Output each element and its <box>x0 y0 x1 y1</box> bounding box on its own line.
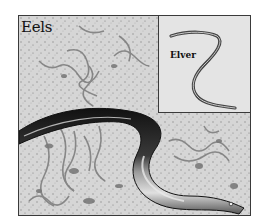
elver-inset: Elver <box>158 15 251 113</box>
title-label: Eels <box>21 18 52 36</box>
elver-label: Elver <box>170 50 196 60</box>
elver-drawing <box>159 16 251 113</box>
illustration-frame: Eels Elver <box>18 15 251 216</box>
